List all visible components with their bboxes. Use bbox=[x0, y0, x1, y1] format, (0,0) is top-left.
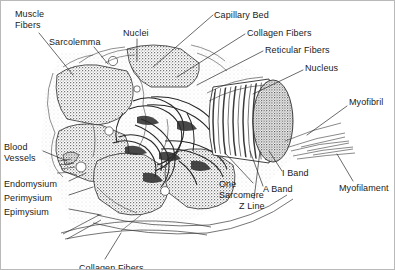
nucleus-disc bbox=[253, 80, 293, 162]
label-collagen-fibers: Collagen Fibers bbox=[247, 28, 312, 39]
label-myofibril: Myofibril bbox=[349, 97, 383, 108]
muscle-anatomy-figure: Muscle Fibers Sarcolemma Nuclei Capillar… bbox=[0, 0, 395, 270]
label-i-band: I Band bbox=[282, 168, 309, 179]
label-blood-vessels: Blood Vessels bbox=[4, 142, 36, 163]
label-collagen-fibers-bottom: Collagen Fibers bbox=[79, 263, 144, 270]
label-sarcolemma: Sarcolemma bbox=[49, 37, 101, 48]
myofibril-leader bbox=[307, 106, 347, 135]
label-endomysium: Endomysium bbox=[4, 179, 57, 190]
label-a-band: A Band bbox=[263, 184, 293, 195]
label-perimysium: Perimysium bbox=[4, 193, 52, 204]
collagen-fibers-bottom-leader bbox=[105, 233, 121, 259]
label-reticular-fibers: Reticular Fibers bbox=[265, 45, 330, 56]
label-capillary-bed: Capillary Bed bbox=[214, 10, 269, 21]
label-one-sarcomere: One Sarcomere bbox=[219, 179, 264, 200]
label-nucleus: Nucleus bbox=[305, 63, 338, 74]
muscle-fiber-cross-section-1 bbox=[56, 65, 133, 125]
label-z-line: Z Line bbox=[239, 201, 265, 212]
myofilament-leader bbox=[337, 154, 353, 181]
label-muscle-fibers: Muscle Fibers bbox=[15, 9, 44, 30]
label-myofilament: Myofilament bbox=[339, 183, 389, 194]
label-nuclei: Nuclei bbox=[123, 28, 149, 39]
label-epimysium: Epimysium bbox=[4, 207, 49, 218]
